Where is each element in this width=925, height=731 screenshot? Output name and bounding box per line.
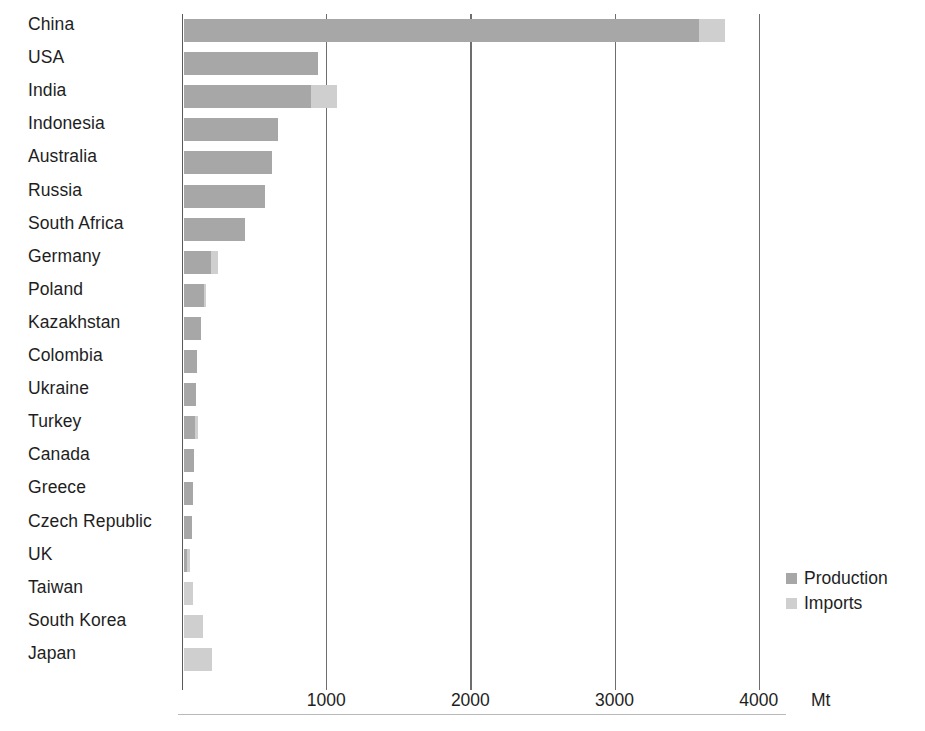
stacked-bar (184, 284, 206, 307)
x-tick-label: 3000 (595, 690, 634, 711)
bar-segment-imports (187, 549, 191, 572)
bar-segment-production (184, 118, 278, 141)
category-label: Australia (28, 140, 97, 173)
category-label: Taiwan (28, 571, 83, 604)
stacked-bar (184, 516, 192, 539)
bar-segment-imports (211, 251, 217, 274)
legend-item: Imports (786, 591, 888, 616)
bar-segment-production (184, 449, 194, 472)
stacked-bar (184, 350, 197, 373)
bar-segment-imports (204, 284, 205, 307)
category-label: Russia (28, 174, 82, 207)
category-label: Turkey (28, 405, 81, 438)
bar-segment-production (184, 284, 204, 307)
stacked-bar (184, 118, 278, 141)
bar-segment-production (184, 218, 245, 241)
bar-segment-production (184, 185, 265, 208)
bar-segment-imports (195, 416, 199, 439)
bar-segment-production (184, 151, 272, 174)
coal-production-imports-chart: ChinaUSAIndiaIndonesiaAustraliaRussiaSou… (0, 0, 925, 731)
category-label: Germany (28, 240, 101, 273)
bar-segment-imports (184, 615, 203, 638)
category-label: Indonesia (28, 107, 105, 140)
category-label: Czech Republic (28, 505, 152, 538)
stacked-bar (184, 218, 245, 241)
category-label: Japan (28, 637, 76, 670)
bar-segment-production (184, 383, 196, 406)
legend-label: Production (804, 568, 888, 589)
stacked-bar (184, 416, 198, 439)
category-label: South Africa (28, 207, 124, 240)
x-tick-label: 2000 (451, 690, 490, 711)
x-axis-unit-label: Mt (811, 690, 830, 711)
legend-swatch-production (786, 573, 797, 584)
stacked-bar (184, 615, 203, 638)
stacked-bar (184, 85, 337, 108)
bar-segment-imports (699, 19, 725, 42)
gridline (326, 14, 327, 690)
legend-label: Imports (804, 593, 862, 614)
category-label: India (28, 74, 66, 107)
chart-legend: ProductionImports (786, 566, 888, 616)
stacked-bar (184, 549, 190, 572)
legend-item: Production (786, 566, 888, 591)
x-tick-label: 4000 (739, 690, 778, 711)
plot-area: 1000200030004000Mt (182, 14, 802, 690)
stacked-bar (184, 383, 196, 406)
bar-segment-production (184, 85, 311, 108)
bar-segment-imports (184, 582, 193, 605)
bar-segment-imports (184, 648, 211, 671)
stacked-bar (184, 19, 725, 42)
stacked-bar (184, 317, 201, 340)
bar-segment-production (184, 317, 201, 340)
category-label: USA (28, 41, 64, 74)
gridline (759, 14, 760, 690)
stacked-bar (184, 482, 193, 505)
category-label: Canada (28, 438, 90, 471)
bar-segment-production (184, 416, 195, 439)
category-label: Ukraine (28, 372, 89, 405)
stacked-bar (184, 251, 218, 274)
stacked-bar (184, 52, 318, 75)
legend-swatch-imports (786, 598, 797, 609)
bar-segment-production (184, 516, 192, 539)
category-label: Kazakhstan (28, 306, 120, 339)
bar-segment-imports (311, 85, 337, 108)
bar-segment-production (184, 251, 211, 274)
category-label: Poland (28, 273, 83, 306)
bar-segment-production (184, 19, 699, 42)
page-separator-rule (178, 714, 786, 715)
stacked-bar (184, 185, 265, 208)
stacked-bar (184, 449, 194, 472)
x-tick-label: 1000 (307, 690, 346, 711)
category-label: UK (28, 538, 53, 571)
bar-segment-production (184, 350, 197, 373)
category-label: China (28, 8, 74, 41)
category-axis-labels: ChinaUSAIndiaIndonesiaAustraliaRussiaSou… (0, 0, 176, 700)
category-label: Colombia (28, 339, 103, 372)
category-label: South Korea (28, 604, 126, 637)
bar-segment-production (184, 52, 318, 75)
stacked-bar (184, 151, 272, 174)
stacked-bar (184, 582, 193, 605)
category-label: Greece (28, 471, 86, 504)
gridline (615, 14, 616, 690)
bar-segment-production (184, 482, 193, 505)
stacked-bar (184, 648, 212, 671)
gridline (470, 14, 471, 690)
